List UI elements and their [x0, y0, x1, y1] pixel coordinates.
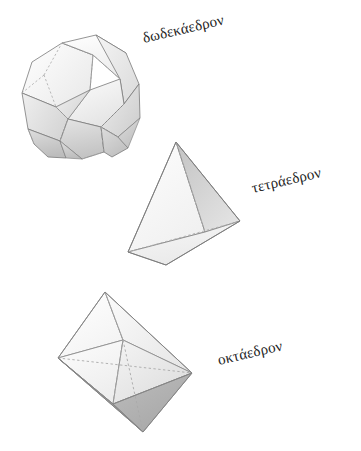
figure-canvas: δωδεκάεδρον τετράεδρον οκτάεδρον — [0, 0, 361, 451]
octahedron-figure — [0, 0, 361, 451]
octahedron-faces — [58, 292, 192, 432]
